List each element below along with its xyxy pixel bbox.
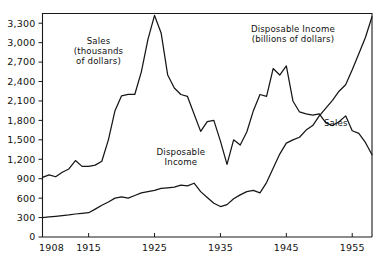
y-tick-label: 300 (17, 212, 36, 223)
sales-series-label-line: Sales (87, 36, 111, 46)
disposable-income-series-label-line: Disposable Income (251, 24, 335, 34)
sales-series-label: Sales(thousandsof dollars) (74, 36, 124, 66)
sales-series-label-line: (thousands (74, 46, 124, 56)
disposable-income-inline-label-line: Disposable (157, 147, 206, 157)
y-tick-label: 900 (17, 173, 36, 184)
disposable-income-inline-label-line: Income (165, 157, 198, 167)
x-axis-ticks (89, 233, 353, 237)
y-tick-label: 3,300 (7, 18, 35, 29)
x-tick-label: 1935 (208, 242, 233, 253)
line-chart: 03006009001,2001,5001,8002,1002,4002,700… (0, 0, 382, 270)
y-tick-label: 3,000 (7, 37, 35, 48)
disposable-income-series-label-line: (billions of dollars) (252, 34, 335, 44)
x-tick-label: 1925 (142, 242, 167, 253)
y-tick-label: 600 (17, 193, 36, 204)
y-tick-label: 2,100 (7, 95, 35, 106)
sales-inline-label: Sales (324, 118, 348, 128)
x-tick-label: 1915 (76, 242, 101, 253)
x-tick-label: 1908 (39, 242, 64, 253)
x-tick-label: 1955 (340, 242, 365, 253)
chart-annotations: Sales(thousandsof dollars)Disposable Inc… (74, 24, 348, 167)
chart-page: 03006009001,2001,5001,8002,1002,4002,700… (0, 0, 382, 270)
x-tick-label: 1945 (274, 242, 299, 253)
y-axis-tick-labels: 03006009001,2001,5001,8002,1002,4002,700… (7, 18, 35, 243)
y-tick-label: 2,400 (7, 76, 35, 87)
y-tick-label: 1,800 (7, 115, 35, 126)
sales-series-label-line: of dollars) (76, 56, 121, 66)
disposable-income-inline-label: DisposableIncome (157, 147, 206, 167)
y-tick-label: 1,500 (7, 134, 35, 145)
disposable-income-series-label: Disposable Income(billions of dollars) (251, 24, 335, 44)
y-tick-label: 1,200 (7, 154, 35, 165)
y-tick-label: 2,700 (7, 56, 35, 67)
sales-inline-label-line: Sales (324, 118, 348, 128)
x-axis-tick-labels: 190819151925193519451955 (39, 242, 365, 253)
y-tick-label: 0 (29, 231, 35, 242)
y-axis-ticks (39, 23, 43, 237)
